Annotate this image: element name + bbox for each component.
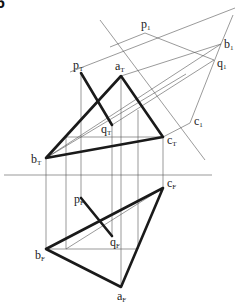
label-pF: pF (74, 192, 84, 207)
label-bF: bF (35, 248, 45, 263)
triangle-top-view (46, 76, 163, 158)
label-aT: aT (115, 59, 125, 74)
descriptive-geometry-diagram: 6 p1 b1 q1 c1 pT aT (0, 0, 235, 305)
figure-number: 6 (0, 0, 5, 11)
aux-line-p1-q1 (145, 33, 214, 60)
label-cF: cF (167, 176, 176, 191)
label-bT: bT (31, 152, 42, 167)
label-c1: c1 (194, 114, 203, 129)
line-pq-top-view (81, 73, 112, 125)
aux-edge-view-plane (190, 15, 233, 123)
label-pT: pT (73, 58, 84, 73)
label-qF: qF (110, 235, 120, 250)
label-p1: p1 (141, 17, 151, 32)
projection-lines-vertical (46, 73, 163, 287)
label-aF: aF (117, 289, 126, 304)
triangle-front-view (46, 188, 163, 287)
label-b1: b1 (224, 37, 234, 52)
label-cT: cT (167, 133, 177, 148)
label-q1: q1 (217, 56, 227, 71)
